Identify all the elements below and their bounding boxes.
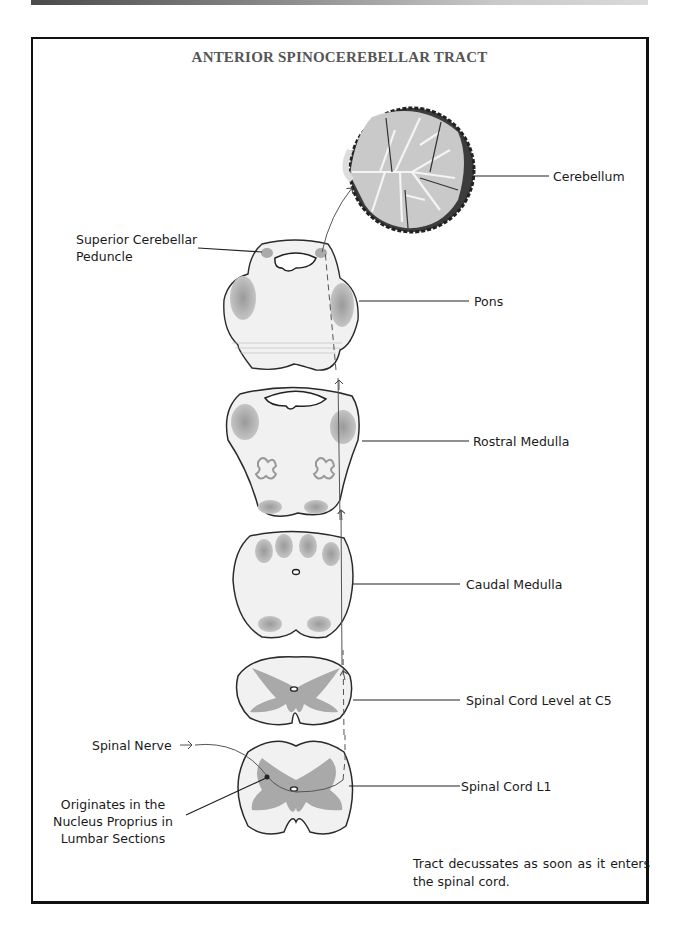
tract-diagram (0, 0, 679, 934)
cerebellum-drawing (345, 108, 474, 232)
pons-section (224, 240, 358, 370)
label-origin-1: Originates in the (40, 796, 186, 813)
label-rostral-medulla: Rostral Medulla (473, 433, 569, 450)
decussation-note: Tract decussates as soon as it enters th… (413, 855, 650, 891)
label-superior-cerebellar-peduncle-2: Peduncle (76, 248, 133, 265)
spinal-cord-c5-section (237, 657, 352, 725)
label-pons: Pons (474, 293, 503, 310)
label-cerebellum: Cerebellum (553, 168, 625, 185)
label-spinal-cord-c5: Spinal Cord Level at C5 (466, 692, 612, 709)
caudal-medulla-section (233, 531, 353, 637)
label-origin-2: Nucleus Proprius in (40, 813, 186, 830)
label-spinal-cord-l1: Spinal Cord L1 (461, 778, 552, 795)
label-spinal-nerve: Spinal Nerve (92, 737, 172, 754)
peduncle-leader-line (198, 248, 262, 252)
spinal-cord-l1-section (238, 741, 353, 834)
label-caudal-medulla: Caudal Medulla (466, 576, 562, 593)
label-origin-3: Lumbar Sections (40, 830, 186, 847)
label-superior-cerebellar-peduncle-1: Superior Cerebellar (76, 231, 197, 248)
